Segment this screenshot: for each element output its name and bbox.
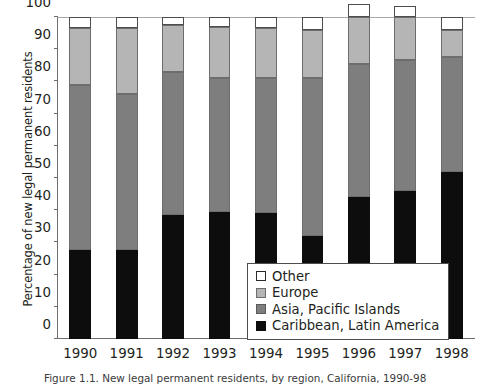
bar-segment[interactable] [162,215,184,339]
bar-segment[interactable] [394,6,416,17]
bar-segment[interactable] [302,30,324,78]
legend-swatch-icon [256,288,266,298]
x-axis-label: 1992 [156,346,190,361]
legend: OtherEuropeAsia, Pacific IslandsCaribbea… [247,263,449,340]
x-axis-label: 1990 [63,346,97,361]
legend-swatch-icon [256,321,266,331]
stacked-bar[interactable] [209,17,231,339]
bar-segment[interactable] [209,17,231,27]
bar-segment[interactable] [348,4,370,17]
y-axis-label: 50 [34,156,51,171]
x-axis-label: 1994 [249,346,283,361]
stacked-bar[interactable] [116,17,138,339]
bar-segment[interactable] [116,94,138,250]
bar-segment[interactable] [348,17,370,64]
bar-group: 1991 [116,17,138,339]
bar-segment[interactable] [69,17,91,28]
y-axis-label: 0 [42,317,51,332]
y-axis-tick [54,241,58,242]
x-axis-label: 1993 [203,346,237,361]
y-axis-tick [54,209,58,210]
x-axis-label: 1998 [435,346,469,361]
legend-item[interactable]: Europe [256,285,439,302]
bar-segment[interactable] [441,30,463,57]
legend-swatch-icon [256,271,266,281]
x-axis-label: 1991 [110,346,144,361]
bar-segment[interactable] [209,78,231,212]
legend-item-label: Other [272,270,309,283]
bar-segment[interactable] [255,17,277,28]
y-axis-label: 70 [34,91,51,106]
y-axis-tick [54,177,58,178]
y-axis-label: 90 [34,27,51,42]
bar-segment[interactable] [69,250,91,339]
stacked-bar[interactable] [162,17,184,339]
legend-item-label: Europe [272,286,318,299]
y-axis-tick [54,48,58,49]
bar-segment[interactable] [116,17,138,28]
stacked-bar[interactable] [69,17,91,339]
x-axis-label: 1995 [295,346,329,361]
y-axis-tick [54,274,58,275]
bar-segment[interactable] [116,28,138,94]
legend-item-label: Asia, Pacific Islands [272,303,400,316]
legend-item[interactable]: Other [256,268,439,285]
x-axis-label: 1996 [342,346,376,361]
bar-segment[interactable] [69,28,91,84]
bar-group: 1992 [162,17,184,339]
y-axis-tick [54,80,58,81]
legend-item-label: Caribbean, Latin America [272,319,439,332]
figure-caption: Figure 1.1. New legal permanent resident… [44,372,490,384]
y-axis-tick [54,306,58,307]
bar-segment[interactable] [162,17,184,25]
y-axis-label: 100 [25,0,51,10]
bar-segment[interactable] [394,60,416,190]
y-axis-label: 80 [34,59,51,74]
y-axis-label: 20 [34,252,51,267]
y-axis-label: 10 [34,284,51,299]
y-axis-tick [54,145,58,146]
y-axis-label: 30 [34,220,51,235]
bar-segment[interactable] [209,212,231,339]
figure: Percentage of new legal permanent reside… [0,0,490,384]
bar-segment[interactable] [255,78,277,213]
bar-segment[interactable] [441,17,463,30]
y-axis-title: Percentage of new legal permanent reside… [21,14,35,344]
y-axis-tick [54,113,58,114]
bar-group: 1993 [209,17,231,339]
bar-group: 1990 [69,17,91,339]
y-axis-tick [54,16,58,17]
y-axis-label: 60 [34,123,51,138]
bar-segment[interactable] [255,28,277,78]
legend-swatch-icon [256,304,266,314]
bar-segment[interactable] [302,78,324,236]
bar-segment[interactable] [69,85,91,251]
bar-segment[interactable] [302,17,324,30]
bar-segment[interactable] [394,17,416,60]
bar-segment[interactable] [441,57,463,171]
legend-item[interactable]: Asia, Pacific Islands [256,301,439,318]
y-axis-tick [54,338,58,339]
bar-segment[interactable] [209,27,231,79]
bar-segment[interactable] [116,250,138,339]
x-axis-label: 1997 [388,346,422,361]
bar-segment[interactable] [162,72,184,215]
y-axis-label: 40 [34,188,51,203]
legend-item[interactable]: Caribbean, Latin America [256,318,439,335]
bar-segment[interactable] [348,64,370,198]
bar-segment[interactable] [162,25,184,72]
